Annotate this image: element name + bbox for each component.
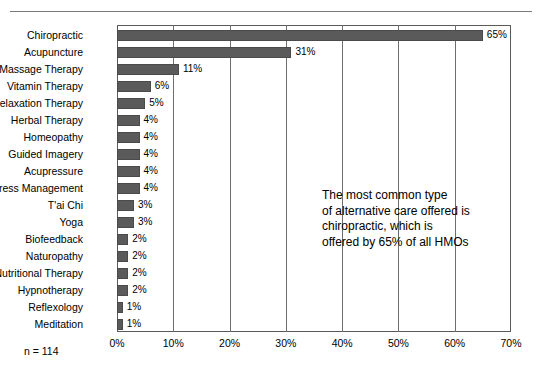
- bar-row: Guided Imagery4%: [117, 146, 511, 163]
- bar: [117, 98, 145, 109]
- annotation-line: The most common type: [322, 188, 470, 204]
- bar: [117, 200, 134, 211]
- bar-value-label: 5%: [149, 96, 163, 110]
- bar-rows: Chiropractic65%Acupuncture31%Massage The…: [117, 25, 511, 332]
- chart-annotation: The most common typeof alternative care …: [322, 188, 470, 250]
- x-tick-label: 20%: [219, 336, 240, 350]
- bar-chart: Chiropractic65%Acupuncture31%Massage The…: [0, 0, 540, 371]
- bar-value-label: 6%: [155, 79, 169, 93]
- bar-value-label: 3%: [138, 198, 152, 212]
- category-label: T'ai Chi: [48, 198, 83, 212]
- x-tick-label: 60%: [444, 336, 465, 350]
- sample-size-note: n = 114: [24, 344, 59, 358]
- bar-value-label: 2%: [132, 232, 146, 246]
- bar: [117, 319, 123, 330]
- category-label: Relaxation Therapy: [0, 96, 83, 110]
- category-label: Yoga: [59, 215, 83, 229]
- bar-value-label: 4%: [144, 147, 158, 161]
- annotation-line: of alternative care offered is: [322, 204, 470, 220]
- bar-value-label: 4%: [144, 181, 158, 195]
- bar: [117, 217, 134, 228]
- x-tick-label: 0%: [109, 336, 124, 350]
- bar: [117, 132, 140, 143]
- category-label: Biofeedback: [25, 232, 83, 246]
- category-label: Massage Therapy: [0, 62, 83, 76]
- bar-value-label: 4%: [144, 130, 158, 144]
- bar: [117, 81, 151, 92]
- bar-row: Vitamin Therapy6%: [117, 78, 511, 95]
- category-label: Acupressure: [24, 164, 83, 178]
- bar: [117, 115, 140, 126]
- bar: [117, 64, 179, 75]
- bar: [117, 268, 128, 279]
- annotation-line: offered by 65% of all HMOs: [322, 235, 470, 251]
- category-label: Homeopathy: [23, 130, 83, 144]
- bar-row: Meditation1%: [117, 316, 511, 333]
- bar-row: Acupuncture31%: [117, 44, 511, 61]
- category-label: Chiropractic: [27, 28, 83, 42]
- x-tick-label: 70%: [500, 336, 521, 350]
- category-label: Herbal Therapy: [11, 113, 83, 127]
- bar-value-label: 4%: [144, 164, 158, 178]
- bar: [117, 285, 128, 296]
- bar-value-label: 1%: [127, 300, 141, 314]
- bar-value-label: 11%: [183, 62, 202, 76]
- bar-value-label: 65%: [487, 28, 507, 42]
- category-label: Vitamin Therapy: [7, 79, 83, 93]
- bar-row: Relaxation Therapy5%: [117, 95, 511, 112]
- bar: [117, 302, 123, 313]
- bar-value-label: 4%: [144, 113, 158, 127]
- bar: [117, 30, 483, 41]
- bar-row: Naturopathy2%: [117, 248, 511, 265]
- x-tick-label: 40%: [332, 336, 353, 350]
- bar-value-label: 3%: [138, 215, 152, 229]
- annotation-line: chiropractic, which is: [322, 219, 470, 235]
- category-label: Meditation: [35, 317, 83, 331]
- category-label: Nutritional Therapy: [0, 266, 83, 280]
- bar-row: Massage Therapy11%: [117, 61, 511, 78]
- bar-row: Reflexology1%: [117, 299, 511, 316]
- bar-row: Chiropractic65%: [117, 27, 511, 44]
- bar-row: Hypnotherapy2%: [117, 282, 511, 299]
- category-label: Guided Imagery: [8, 147, 83, 161]
- bar-value-label: 2%: [132, 283, 146, 297]
- bar: [117, 251, 128, 262]
- x-tick-label: 10%: [163, 336, 184, 350]
- category-label: Reflexology: [28, 300, 83, 314]
- bar-value-label: 2%: [132, 249, 146, 263]
- bar: [117, 234, 128, 245]
- bar: [117, 166, 140, 177]
- bar: [117, 149, 140, 160]
- bar-value-label: 1%: [127, 317, 141, 331]
- bar-row: Nutritional Therapy2%: [117, 265, 511, 282]
- category-label: Stress Management: [0, 181, 83, 195]
- bar-row: Herbal Therapy4%: [117, 112, 511, 129]
- x-tick-label: 30%: [275, 336, 296, 350]
- bar: [117, 183, 140, 194]
- bar-value-label: 2%: [132, 266, 146, 280]
- category-label: Naturopathy: [26, 249, 83, 263]
- bar-row: Acupressure4%: [117, 163, 511, 180]
- x-axis-tick-labels: 0%10%20%30%40%50%60%70%: [117, 336, 511, 352]
- bar: [117, 47, 291, 58]
- category-label: Acupuncture: [24, 45, 83, 59]
- category-label: Hypnotherapy: [18, 283, 83, 297]
- bar-row: Homeopathy4%: [117, 129, 511, 146]
- bar-value-label: 31%: [295, 45, 315, 59]
- x-tick-label: 50%: [388, 336, 409, 350]
